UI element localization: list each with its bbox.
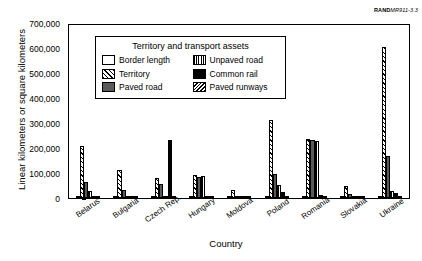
bar-group — [371, 25, 409, 198]
legend-item: Border length — [102, 55, 189, 65]
bar — [315, 141, 319, 199]
x-tick-cell: Poland — [258, 200, 296, 240]
legend-item: Common rail — [193, 69, 280, 79]
x-tick-cell: Moldova — [220, 200, 258, 240]
x-tick-label: Hungary — [187, 196, 217, 221]
bar-group — [296, 25, 334, 198]
legend-label: Territory — [119, 69, 150, 79]
y-axis-ticks: 0100,000200,000300,000400,000500,000600,… — [14, 0, 60, 261]
legend-item: Paved road — [102, 82, 189, 92]
legend-swatch — [102, 82, 115, 92]
rand-doc-id: MR911-3.3 — [390, 7, 418, 13]
x-tick-cell: Bulgaria — [106, 200, 144, 240]
x-tick-cell: Romania — [296, 200, 334, 240]
y-tick-label: 400,000 — [18, 95, 60, 103]
legend-item: Paved runways — [193, 82, 280, 92]
x-tick-label: Poland — [265, 197, 291, 219]
bar — [201, 176, 205, 199]
x-tick-cell: Hungary — [182, 200, 220, 240]
legend-swatch — [193, 82, 206, 92]
x-axis-tick-labels: BelarusBulgariaCzech Rep.HungaryMoldovaP… — [68, 200, 410, 240]
legend: Territory and transport assets Border le… — [95, 36, 286, 99]
x-tick-label: Slovakia — [339, 196, 369, 221]
x-tick-cell: Belarus — [68, 200, 106, 240]
y-tick-label: 500,000 — [18, 70, 60, 78]
legend-swatch — [102, 69, 115, 79]
x-axis-title: Country — [0, 238, 422, 249]
legend-label: Paved road — [119, 82, 162, 92]
legend-swatch — [193, 55, 206, 65]
legend-label: Border length — [119, 55, 170, 65]
legend-swatch — [193, 69, 206, 79]
bar-chart: RANDMR911-3.3 Linear kilometers or squar… — [0, 0, 422, 261]
legend-label: Common rail — [210, 69, 258, 79]
x-tick-cell: Slovakia — [334, 200, 372, 240]
legend-title: Territory and transport assets — [102, 41, 279, 51]
x-tick-cell: Ukraine — [372, 200, 410, 240]
legend-item: Unpaved road — [193, 55, 280, 65]
y-tick-label: 700,000 — [18, 20, 60, 28]
y-tick-label: 300,000 — [18, 120, 60, 128]
x-tick-label: Bulgaria — [111, 196, 140, 220]
x-tick-label: Ukraine — [378, 196, 406, 219]
legend-item: Territory — [102, 69, 189, 79]
legend-swatch — [102, 55, 115, 65]
y-tick-label: 0 — [18, 195, 60, 203]
bar — [168, 140, 172, 198]
y-tick-label: 600,000 — [18, 45, 60, 53]
x-tick-label: Moldova — [225, 196, 255, 221]
legend-items: Border lengthUnpaved roadTerritoryCommon… — [102, 55, 279, 92]
legend-label: Paved runways — [210, 82, 268, 92]
x-tick-label: Belarus — [74, 196, 101, 219]
rand-source-note: RANDMR911-3.3 — [374, 7, 418, 13]
y-tick-label: 100,000 — [18, 170, 60, 178]
y-tick-label: 200,000 — [18, 145, 60, 153]
rand-brand: RAND — [374, 7, 390, 13]
x-tick-cell: Czech Rep. — [144, 200, 182, 240]
bar-group — [333, 25, 371, 198]
legend-label: Unpaved road — [210, 55, 263, 65]
x-tick-label: Romania — [300, 195, 331, 221]
